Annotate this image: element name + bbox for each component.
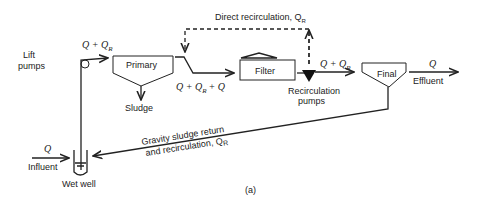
primary-label: Primary [126,60,157,70]
final-label: Final [377,69,397,79]
recirculation-pumps-label-1: Recirculation [288,86,340,96]
process-flow-diagram: Direct recirculation, QR Lift pumps Q + … [0,0,481,208]
direct-recirculation-line [185,29,309,64]
q-qr-qr-label: Q + QR+ Q [176,81,226,95]
direct-recirculation-label: Direct recirculation, QR [215,12,307,24]
q-qr-label-1: Q + QR [82,39,113,53]
lift-line [81,58,108,170]
diagram-canvas: Direct recirculation, QR Lift pumps Q + … [0,0,481,208]
recirculation-pumps-label-2: pumps [298,96,326,106]
influent-label: Influent [28,162,58,172]
filter-roof-icon [241,53,277,58]
influent-q-label: Q [44,143,52,154]
recirculation-pump-icon [302,70,316,82]
lift-pumps-label-1: Lift [23,50,36,60]
lift-pumps-label-2: pumps [18,61,46,71]
gravity-return-line [93,87,388,156]
effluent-q-label: Q [429,58,437,69]
caption: (a) [245,185,256,195]
filter-label: Filter [255,66,275,76]
wet-well-label: Wet well [62,179,96,189]
lift-pump-icon [81,60,89,68]
primary-to-filter-line [175,57,234,73]
sludge-label: Sludge [125,103,153,113]
effluent-label: Effluent [413,76,444,86]
q-qr-label-2: Q + QR [320,58,351,72]
